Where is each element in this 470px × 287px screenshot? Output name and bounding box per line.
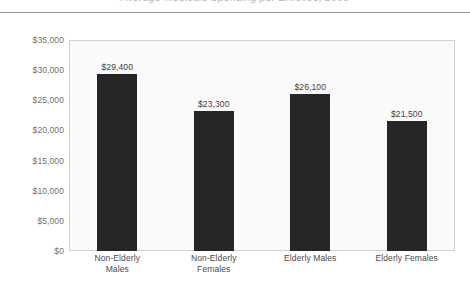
x-axis-category-label: Non-ElderlyFemales [166, 253, 263, 275]
bar-group: $23,300 [166, 40, 263, 251]
y-axis-tick-label: $30,000 [0, 65, 64, 75]
y-axis-tick-label: $35,000 [0, 35, 64, 45]
bar-value-label: $21,500 [391, 109, 422, 119]
bar-group: $29,400 [69, 40, 166, 251]
x-axis-category-label: Non-ElderlyMales [69, 253, 166, 275]
bar-group: $26,100 [262, 40, 359, 251]
y-axis-tick-label: $25,000 [0, 95, 64, 105]
y-axis: $35,000$30,000$25,000$20,000$15,000$10,0… [0, 40, 64, 251]
bar [290, 94, 330, 251]
x-axis-category-line: Males [69, 264, 166, 275]
bar-chart: $35,000$30,000$25,000$20,000$15,000$10,0… [0, 13, 470, 287]
y-axis-tick-label: $0 [0, 246, 64, 256]
x-axis-category-label: Elderly Females [359, 253, 456, 264]
y-axis-tick-label: $5,000 [0, 216, 64, 226]
x-axis-category-line: Elderly Males [262, 253, 359, 264]
bar [387, 121, 427, 251]
bar-value-label: $23,300 [198, 99, 229, 109]
bar-value-label: $29,400 [102, 62, 133, 72]
y-axis-tick-label: $15,000 [0, 156, 64, 166]
x-axis-category-line: Elderly Females [359, 253, 456, 264]
bar-value-label: $26,100 [295, 82, 326, 92]
y-axis-tick-label: $20,000 [0, 125, 64, 135]
x-axis-category-label: Elderly Males [262, 253, 359, 264]
x-axis-category-line: Non-Elderly [69, 253, 166, 264]
x-axis-category-line: Females [166, 264, 263, 275]
x-axis: Non-ElderlyMalesNon-ElderlyFemalesElderl… [69, 253, 455, 287]
x-axis-category-line: Non-Elderly [166, 253, 263, 264]
page-title-strip: Average Medicaid Spending per Enrollee, … [0, 0, 470, 11]
bars-layer: $29,400$23,300$26,100$21,500 [69, 40, 455, 251]
bar [97, 74, 137, 251]
y-axis-tick-label: $10,000 [0, 186, 64, 196]
page-title: Average Medicaid Spending per Enrollee, … [0, 0, 470, 3]
bar [194, 111, 234, 251]
bar-group: $21,500 [359, 40, 456, 251]
